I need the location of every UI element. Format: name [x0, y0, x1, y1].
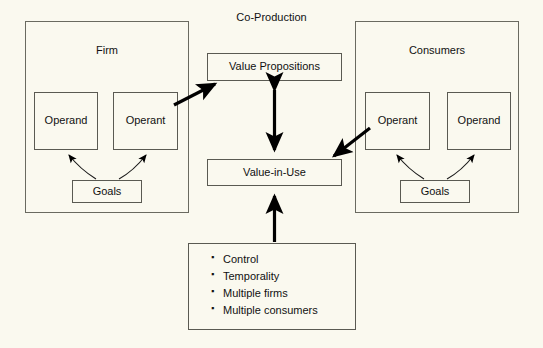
factors-list-item: Multiple firms: [211, 287, 318, 299]
consumer-goals-box: Goals: [400, 180, 470, 203]
consumer-operant-box: Operant: [365, 92, 430, 150]
firm-goals-box: Goals: [72, 180, 142, 203]
factors-list-item: Multiple consumers: [211, 304, 318, 316]
value-in-use-box: Value-in-Use: [207, 159, 342, 186]
firm-group-label: Firm: [25, 44, 189, 56]
firm-operant-box: Operant: [113, 92, 178, 150]
consumers-group-label: Consumers: [355, 44, 519, 56]
factors-box: Control Temporality Multiple firms Multi…: [188, 243, 356, 330]
factors-list-item: Temporality: [211, 270, 318, 282]
factors-list: Control Temporality Multiple firms Multi…: [211, 253, 318, 321]
value-propositions-box: Value Propositions: [207, 53, 342, 81]
consumer-operand-box: Operand: [447, 92, 511, 150]
firm-operand-box: Operand: [34, 92, 98, 150]
factors-list-item: Control: [211, 253, 318, 265]
diagram-canvas: Co-Production Firm Operand Operant Goals…: [0, 0, 543, 348]
